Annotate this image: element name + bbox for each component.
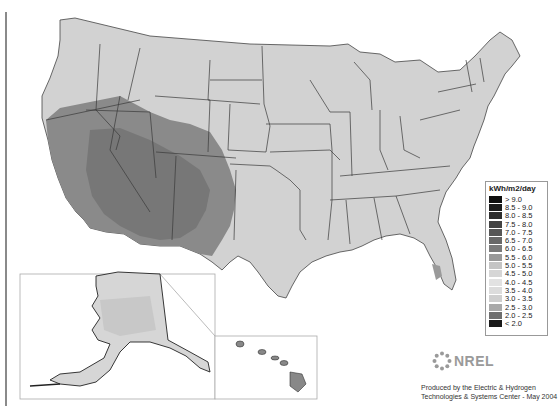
credit-line-2: Technologies & Systems Center - May 2004 <box>421 392 557 401</box>
legend-swatch <box>489 204 502 211</box>
legend-item: 6.0 - 6.5 <box>489 245 544 253</box>
credit-line-1: Produced by the Electric & Hydrogen <box>421 383 557 392</box>
legend-label: 2.0 - 2.5 <box>505 312 533 319</box>
hawaii-inset-frame <box>215 336 317 399</box>
legend-item: 4.5 - 5.0 <box>489 270 544 278</box>
legend-swatch <box>489 212 502 219</box>
legend-label: 7.5 - 8.0 <box>505 221 533 228</box>
legend-swatch <box>489 229 502 236</box>
legend-swatch <box>489 270 502 277</box>
legend-label: 4.0 - 4.5 <box>505 279 533 286</box>
legend-swatch <box>489 304 502 311</box>
legend-item: 3.0 - 3.5 <box>489 295 544 303</box>
legend-label: 3.5 - 4.0 <box>505 287 533 294</box>
legend-swatch <box>489 279 502 286</box>
credit-text: Produced by the Electric & Hydrogen Tech… <box>421 383 557 401</box>
legend-label: 2.5 - 3.0 <box>505 304 533 311</box>
nrel-sun-icon <box>432 351 452 371</box>
legend-swatch <box>489 245 502 252</box>
legend-label: 5.0 - 5.5 <box>505 262 533 269</box>
legend-label: 3.0 - 3.5 <box>505 295 533 302</box>
legend-swatch <box>489 221 502 228</box>
legend-swatch <box>489 196 502 203</box>
legend-label: 7.0 - 7.5 <box>505 229 533 236</box>
nrel-logo: NREL <box>432 351 494 371</box>
legend-label: 5.5 - 6.0 <box>505 254 533 261</box>
legend-item: 8.0 - 8.5 <box>489 212 544 220</box>
legend-label: 4.5 - 5.0 <box>505 270 533 277</box>
map-legend: kWh/m2/day > 9.08.5 - 9.08.0 - 8.57.5 - … <box>485 181 548 336</box>
legend-swatch <box>489 287 502 294</box>
legend-title: kWh/m2/day <box>489 184 544 193</box>
legend-swatch <box>489 320 502 327</box>
legend-swatch <box>489 312 502 319</box>
legend-swatch <box>489 262 502 269</box>
legend-label: 8.0 - 8.5 <box>505 212 533 219</box>
nrel-logo-text: NREL <box>454 353 494 369</box>
legend-item: 2.5 - 3.0 <box>489 303 544 311</box>
legend-label: 6.0 - 6.5 <box>505 245 533 252</box>
legend-swatch <box>489 254 502 261</box>
legend-label: > 9.0 <box>505 196 522 203</box>
legend-label: 6.5 - 7.0 <box>505 237 533 244</box>
legend-label: 8.5 - 9.0 <box>505 204 533 211</box>
legend-swatch <box>489 237 502 244</box>
legend-item: < 2.0 <box>489 319 544 327</box>
legend-label: < 2.0 <box>505 320 522 327</box>
solar-radiation-map <box>0 0 560 406</box>
legend-swatch <box>489 295 502 302</box>
legend-item: 7.5 - 8.0 <box>489 220 544 228</box>
